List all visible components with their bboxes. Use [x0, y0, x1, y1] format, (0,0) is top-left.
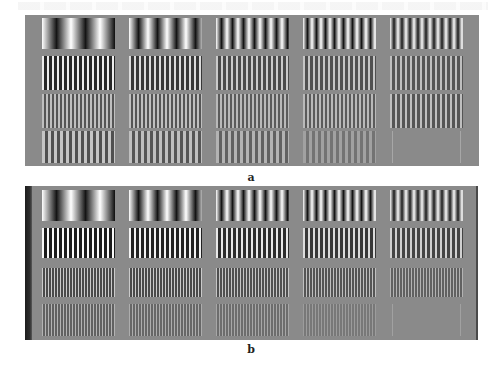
grating-tile-b-r2-c4	[303, 228, 376, 258]
grating-tile-b-r4-c4	[303, 304, 376, 336]
grating-tile-a-r2-c4	[303, 56, 376, 90]
grating-tile-a-r2-c2	[129, 56, 202, 90]
grating-tile-b-r4-c3	[216, 304, 289, 336]
grating-tile-b-r2-c1	[42, 228, 115, 258]
grating-tile-a-r4-c5	[390, 131, 463, 163]
grating-tile-a-r1-c5	[390, 18, 463, 49]
grating-tile-a-r4-c3	[216, 131, 289, 163]
grating-tile-b-r1-c1	[42, 190, 115, 221]
grating-tile-b-r3-c5	[390, 268, 463, 297]
grating-tile-a-r1-c4	[303, 18, 376, 49]
grating-tile-b-r1-c2	[129, 190, 202, 221]
grating-tile-a-r2-c5	[390, 56, 463, 90]
grating-tile-b-r1-c5	[390, 190, 463, 221]
panel-a-caption: a	[247, 171, 254, 184]
grating-tile-b-r1-c3	[216, 190, 289, 221]
grating-tile-a-r3-c5	[390, 94, 463, 128]
grating-tile-b-r3-c3	[216, 268, 289, 297]
panel-b-grating-grid	[25, 186, 478, 340]
grating-tile-a-r3-c3	[216, 94, 289, 128]
grating-tile-a-r3-c4	[303, 94, 376, 128]
grating-tile-a-r1-c3	[216, 18, 289, 49]
grating-tile-a-r4-c4	[303, 131, 376, 163]
bleed-through-text	[18, 2, 488, 10]
grating-tile-a-r1-c2	[129, 18, 202, 49]
grating-tile-b-r4-c2	[129, 304, 202, 336]
grating-tile-b-r2-c2	[129, 228, 202, 258]
grating-tile-a-r3-c2	[129, 94, 202, 128]
grating-tile-a-r2-c3	[216, 56, 289, 90]
grating-tile-b-r3-c1	[42, 268, 115, 297]
grating-tile-a-r2-c1	[42, 56, 115, 90]
grating-tile-b-r4-c1	[42, 304, 115, 336]
grating-tile-b-r3-c2	[129, 268, 202, 297]
grating-tile-a-r4-c2	[129, 131, 202, 163]
grating-tile-b-r1-c4	[303, 190, 376, 221]
grating-tile-b-r2-c3	[216, 228, 289, 258]
grating-tile-b-r2-c5	[390, 228, 463, 258]
grating-tile-a-r1-c1	[42, 18, 115, 49]
panel-a-grating-grid	[25, 15, 479, 166]
panel-b-dark-border	[25, 186, 32, 340]
grating-tile-b-r3-c4	[303, 268, 376, 297]
grating-tile-a-r3-c1	[42, 94, 115, 128]
grating-tile-a-r4-c1	[42, 131, 115, 163]
panel-b-caption: b	[247, 343, 255, 356]
grating-tile-b-r4-c5	[390, 304, 463, 336]
